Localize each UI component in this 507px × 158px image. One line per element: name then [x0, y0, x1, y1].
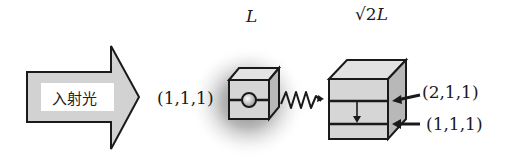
length-symbol: L — [377, 4, 388, 24]
large-box-size-label: √2L — [355, 4, 388, 24]
small-box — [229, 68, 279, 119]
small-box-size-label: L — [246, 6, 257, 26]
small-box-state-label: (1,1,1) — [157, 88, 214, 108]
particle-ball — [242, 93, 256, 107]
upper-level-label: (2,1,1) — [422, 82, 479, 102]
sqrt2-factor: √2 — [355, 4, 377, 24]
incident-light-label: 入射光 — [52, 87, 97, 108]
lower-level-label: (1,1,1) — [426, 114, 483, 134]
